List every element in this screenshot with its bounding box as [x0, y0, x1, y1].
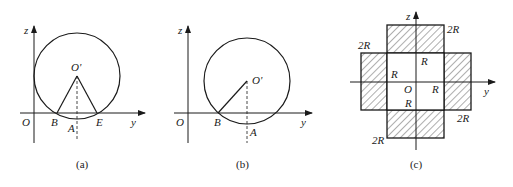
- a-E-label: E: [95, 116, 103, 128]
- c-top-right-label: 2R: [447, 23, 460, 35]
- c-inner-bottom-label: R: [404, 97, 412, 109]
- figure-canvas: z y O O' B A E (a) z y O O' B A (b) z y: [0, 0, 513, 187]
- c-inner-left-label: R: [390, 68, 398, 80]
- c-z-label: z: [405, 10, 411, 22]
- a-caption: (a): [76, 158, 89, 171]
- c-inner-top-label: R: [420, 55, 428, 67]
- c-caption: (c): [410, 158, 423, 171]
- b-z-label: z: [177, 24, 183, 36]
- figure-a: z y O O' B A E (a): [20, 24, 145, 171]
- a-y-label: y: [130, 116, 136, 128]
- c-inner-right-label: R: [431, 83, 439, 95]
- a-radius-OE: [77, 76, 97, 113]
- a-z-label: z: [23, 24, 29, 36]
- a-center-label: O': [71, 61, 82, 73]
- c-y-label: y: [483, 85, 489, 97]
- b-caption: (b): [236, 158, 249, 171]
- b-radius-OB: [218, 81, 247, 113]
- c-right-bottom-label: 2R: [457, 112, 470, 124]
- figure-b: z y O O' B A (b): [174, 24, 312, 171]
- b-center-label: O': [252, 74, 263, 86]
- a-A-label: A: [67, 122, 75, 134]
- figure-c: z y O 2R 2R 2R 2R R R R R (c): [350, 10, 495, 171]
- b-A-label: A: [249, 126, 257, 138]
- b-origin-label: O: [176, 116, 184, 128]
- c-bottom-left-label: 2R: [372, 134, 385, 146]
- a-B-label: B: [51, 116, 58, 128]
- b-y-label: y: [300, 116, 306, 128]
- c-origin-label: O: [404, 83, 412, 95]
- c-left-top-label: 2R: [358, 39, 371, 51]
- a-origin-label: O: [22, 116, 30, 128]
- a-radius-OB: [57, 76, 77, 113]
- b-B-label: B: [214, 116, 221, 128]
